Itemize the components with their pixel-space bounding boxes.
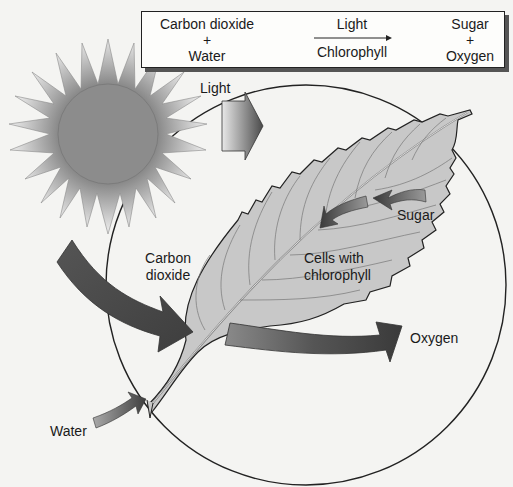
reaction-arrow-icon	[292, 32, 412, 44]
oxygen-arrow	[225, 322, 402, 362]
equation-reactants: Carbon dioxide + Water	[148, 16, 266, 64]
equation-products: Sugar + Oxygen	[440, 16, 500, 64]
condition-light: Light	[292, 16, 412, 32]
equation-conditions: Light Chlorophyll	[292, 16, 412, 60]
plus-sign: +	[148, 32, 266, 48]
label-water: Water	[50, 423, 87, 439]
label-sugar: Sugar	[397, 207, 434, 223]
equation-box: Carbon dioxide + Water Light Chlorophyll…	[141, 11, 505, 68]
product-oxygen: Oxygen	[440, 48, 500, 64]
condition-chlorophyll: Chlorophyll	[292, 44, 412, 60]
label-oxygen: Oxygen	[410, 330, 458, 346]
label-cells-line1: Cells with	[304, 250, 364, 266]
water-arrow	[93, 392, 146, 428]
label-carbon-dioxide-line2: dioxide	[140, 267, 196, 283]
light-arrow	[222, 92, 263, 160]
sun-icon	[9, 39, 207, 234]
product-sugar: Sugar	[440, 16, 500, 32]
label-cells-line2: chlorophyll	[304, 267, 371, 283]
plus-sign: +	[440, 32, 500, 48]
photosynthesis-diagram	[0, 0, 513, 487]
label-carbon-dioxide-line1: Carbon	[140, 250, 196, 266]
label-light: Light	[200, 80, 230, 96]
reactant-water: Water	[148, 48, 266, 64]
reactant-carbon-dioxide: Carbon dioxide	[148, 16, 266, 32]
